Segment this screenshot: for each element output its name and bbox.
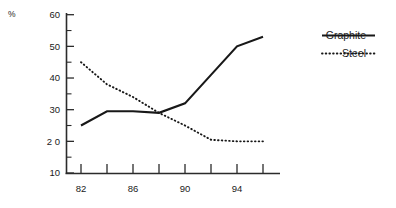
y-axis-tick-label: 40 [49, 72, 60, 83]
x-axis-tick-label: 82 [76, 183, 87, 194]
x-axis-tick-label: 86 [128, 183, 139, 194]
y-axis-ticks [67, 15, 75, 173]
chart-legend: Graphite Steel [322, 29, 375, 59]
series-line-steel [81, 62, 263, 141]
y-axis-tick-label: 50 [49, 41, 60, 52]
x-axis-tick-labels: 82869094 [76, 183, 243, 194]
series-line-graphite [81, 37, 263, 126]
chart-canvas: % 605040302 010 82869094 Graphite Steel [0, 0, 396, 208]
y-axis-unit-label: % [8, 9, 16, 19]
y-axis-tick-label: 60 [49, 9, 60, 20]
x-axis-tick-label: 90 [180, 183, 191, 194]
x-axis-ticks [81, 164, 263, 174]
x-axis-tick-label: 94 [232, 183, 243, 194]
y-axis-tick-labels: 605040302 010 [47, 9, 60, 178]
y-axis-tick-label: 2 0 [47, 136, 60, 147]
line-chart: % 605040302 010 82869094 Graphite Steel [0, 0, 396, 208]
y-axis-tick-label: 30 [49, 104, 60, 115]
y-axis-tick-label: 10 [49, 167, 60, 178]
